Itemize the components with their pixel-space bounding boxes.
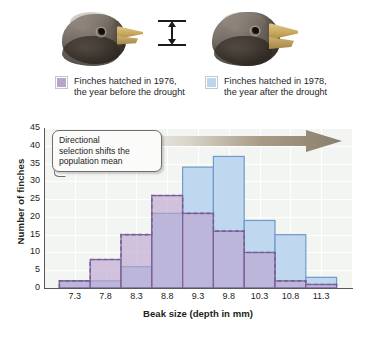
x-tick-label: 7.8 (91, 291, 121, 301)
callout-line-3: population mean (59, 156, 156, 167)
finch-crown-highlight (222, 12, 266, 32)
x-axis-title: Beak size (depth in mm) (44, 308, 352, 319)
legend-item-1976: Finches hatched in 1976, the year before… (56, 76, 185, 99)
y-tick-label: 10 (22, 246, 40, 256)
y-tick-label: 0 (22, 282, 40, 292)
finch-eye (251, 27, 259, 35)
finch-image-1978 (192, 2, 342, 70)
x-tick-label: 8.3 (121, 291, 151, 301)
y-tick-label: 35 (22, 158, 40, 168)
x-tick-label: 9.8 (214, 291, 244, 301)
gridline-vertical (352, 128, 353, 288)
histogram-bar (275, 235, 306, 288)
x-tick-label: 10.8 (275, 291, 305, 301)
legend-item-1978: Finches hatched in 1978, the year after … (206, 76, 327, 99)
finch-head-1978-icon (206, 6, 302, 68)
y-tick-label: 20 (22, 211, 40, 221)
x-axis-tick-labels: 7.37.88.38.89.39.810.310.811.3 (44, 291, 352, 305)
legend-label-1978-line2: the year after the drought (224, 87, 327, 98)
callout-box: Directional selection shifts the populat… (52, 130, 162, 172)
histogram-bar (183, 213, 214, 288)
histogram-bar (90, 260, 121, 288)
finch-head-shading (214, 36, 272, 66)
y-tick-label: 40 (22, 140, 40, 150)
histogram-bar (121, 235, 152, 288)
callout-line-2: selection shifts the (59, 146, 156, 157)
callout-text: Directional selection shifts the populat… (59, 135, 156, 167)
x-tick-label: 11.3 (306, 291, 336, 301)
caliper-arrow-down-icon (168, 39, 176, 45)
legend-label-1978-line1: Finches hatched in 1978, (224, 76, 327, 87)
histogram-bar (244, 252, 275, 288)
finch-head-shading (62, 36, 120, 66)
callout-line-1: Directional (59, 135, 156, 146)
y-tick-label: 30 (22, 175, 40, 185)
finch-upper-beak (269, 23, 298, 40)
x-tick-label: 10.3 (245, 291, 275, 301)
x-tick-label: 9.3 (183, 291, 213, 301)
histogram-bar (152, 196, 183, 288)
y-tick-label: 15 (22, 229, 40, 239)
x-tick-label: 7.3 (60, 291, 90, 301)
legend-swatch-1978 (206, 77, 217, 88)
legend-label-1976: Finches hatched in 1976, the year before… (74, 76, 185, 99)
y-tick-label: 5 (22, 264, 40, 274)
y-axis-tick-labels: 051015202530354045 (20, 100, 40, 338)
y-axis-line (44, 128, 45, 289)
legend-swatch-1976 (56, 77, 67, 88)
histogram-bar (59, 281, 90, 288)
legend-label-1978: Finches hatched in 1978, the year after … (224, 76, 327, 99)
finch-head-1976-icon (54, 6, 150, 68)
finch-crown-highlight (70, 12, 114, 32)
finch-image-1976 (40, 2, 190, 70)
histogram-bar (275, 281, 306, 288)
finch-comparison-panel: Finches hatched in 1976, the year before… (0, 0, 369, 100)
x-axis-line (44, 288, 353, 289)
histogram-bar (213, 231, 244, 288)
x-tick-label: 8.8 (152, 291, 182, 301)
legend-label-1976-line2: the year before the drought (74, 87, 185, 98)
legend-label-1976-line1: Finches hatched in 1976, (74, 76, 185, 87)
beak-depth-caliper-1976 (158, 20, 186, 46)
caliper-arrow-up-icon (168, 21, 176, 27)
y-tick-label: 45 (22, 122, 40, 132)
finch-eye (97, 28, 105, 36)
y-tick-label: 25 (22, 193, 40, 203)
histogram-chart: Number of finches 051015202530354045 7.3… (0, 100, 369, 338)
